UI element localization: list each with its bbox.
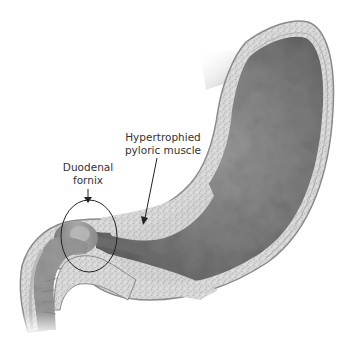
label-line: Duodenal bbox=[58, 161, 118, 174]
stomach-illustration: Hypertrophied pyloric muscle Duodenal fo… bbox=[0, 0, 343, 344]
stomach-drawing bbox=[0, 0, 343, 344]
label-hypertrophied-pyloric-muscle: Hypertrophied pyloric muscle bbox=[118, 131, 208, 157]
label-line: pyloric muscle bbox=[118, 144, 208, 157]
label-duodenal-fornix: Duodenal fornix bbox=[58, 161, 118, 187]
label-line: fornix bbox=[58, 174, 118, 187]
label-line: Hypertrophied bbox=[118, 131, 208, 144]
